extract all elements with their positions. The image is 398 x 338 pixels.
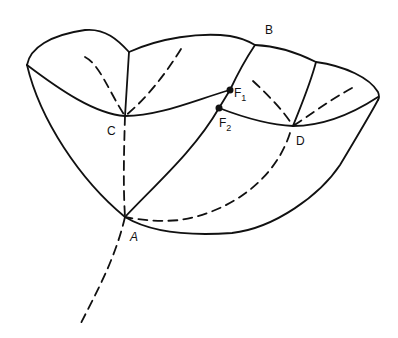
point-f1 <box>227 87 234 94</box>
label-c: C <box>107 124 116 138</box>
label-f1: F1 <box>234 86 246 103</box>
hidden-tail <box>80 217 125 325</box>
label-a: A <box>129 230 138 244</box>
crease-right-d <box>293 62 316 126</box>
front-rim-c-f1 <box>125 90 230 116</box>
label-d: D <box>296 134 305 148</box>
hidden-d-left <box>253 81 293 126</box>
point-f2 <box>216 105 223 112</box>
bottom-curve <box>125 100 378 234</box>
hidden-d-a <box>125 133 290 221</box>
hidden-c-a <box>124 116 125 217</box>
hidden-c-right <box>125 49 181 116</box>
hidden-d-right <box>293 88 352 126</box>
rim-right <box>255 45 379 100</box>
side-left-a <box>27 65 125 217</box>
rim-left-lobe <box>27 30 129 65</box>
surface-diagram: B C D A F1 F2 <box>0 0 398 338</box>
label-b: B <box>265 23 273 37</box>
rim-middle-lobe <box>129 35 255 52</box>
crease-b-a <box>125 45 255 217</box>
crease-notch-c <box>125 52 129 116</box>
label-f2: F2 <box>219 116 231 133</box>
